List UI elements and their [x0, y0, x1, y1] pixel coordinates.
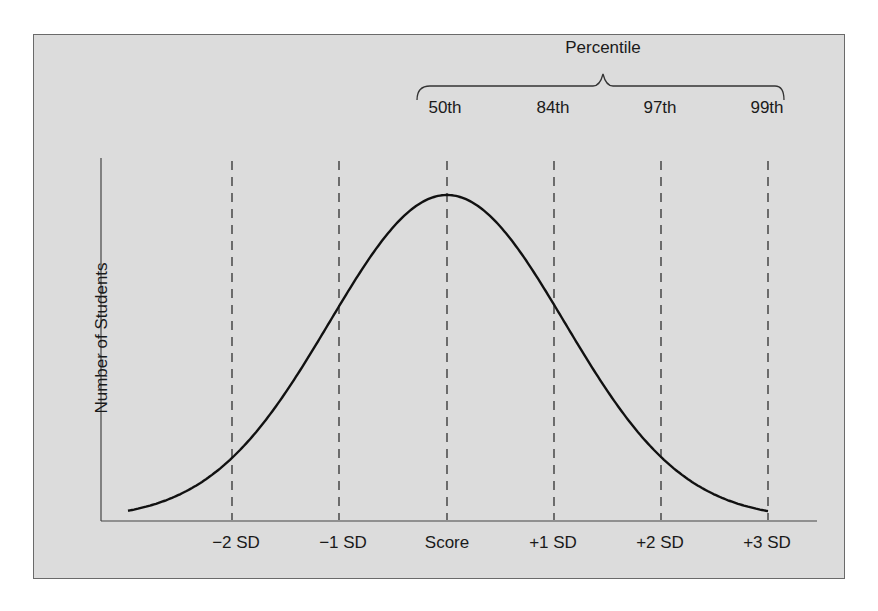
x-tick-label: +2 SD [636, 533, 684, 553]
sd-reference-lines [232, 161, 768, 520]
percentile-label: 50th [428, 98, 461, 118]
x-tick-label: Score [425, 533, 469, 553]
x-tick-label: +3 SD [743, 533, 791, 553]
percentile-label: 99th [750, 98, 783, 118]
bell-curve [128, 195, 768, 511]
x-tick-label: −1 SD [319, 533, 367, 553]
percentile-bracket [417, 74, 784, 100]
x-tick-label: −2 SD [212, 533, 260, 553]
chart-svg [0, 0, 878, 611]
y-axis-label: Number of Students [92, 262, 112, 413]
percentile-label: 97th [643, 98, 676, 118]
x-tick-label: +1 SD [529, 533, 577, 553]
percentile-label: 84th [536, 98, 569, 118]
percentile-title: Percentile [565, 38, 641, 58]
